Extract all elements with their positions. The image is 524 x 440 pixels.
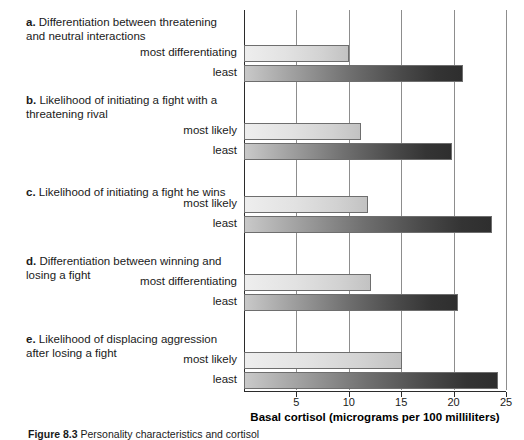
x-axis-tick-label: 15 [395, 396, 407, 408]
bar-label: most likely [37, 124, 237, 136]
x-axis-tick-label: 25 [500, 396, 512, 408]
figure-caption: Figure 8.3 Personality characteristics a… [28, 428, 518, 440]
plot-area [244, 10, 506, 390]
bar-label: most differentiating [37, 46, 237, 58]
bar-label: least [37, 66, 237, 78]
x-axis-tick-label: 5 [293, 396, 299, 408]
bar [244, 143, 452, 160]
x-axis-tick-label: 10 [343, 396, 355, 408]
bar [244, 294, 458, 311]
group-heading-text: Differentiation between threatening and … [26, 16, 217, 42]
bar-label: least [37, 217, 237, 229]
bar [244, 123, 361, 140]
gridline [506, 10, 507, 390]
group-letter: b. [26, 94, 39, 106]
bar-label: most differentiating [37, 275, 237, 287]
bar [244, 352, 402, 369]
x-axis-tick-label: 20 [447, 396, 459, 408]
bar-label: most likely [37, 197, 237, 209]
x-axis-line [244, 391, 506, 392]
bar-label: least [37, 144, 237, 156]
bar-label: least [37, 373, 237, 385]
bar-label: most likely [37, 353, 237, 365]
bar [244, 372, 498, 389]
bar-label: least [37, 295, 237, 307]
bar [244, 196, 368, 213]
group-heading-a: a. Differentiation between threatening a… [26, 16, 238, 43]
bar [244, 274, 371, 291]
bar [244, 65, 463, 82]
group-letter: e. [26, 333, 39, 345]
group-letter: a. [26, 16, 39, 28]
bar [244, 45, 349, 62]
x-axis-title: Basal cortisol (micrograms per 100 milli… [244, 411, 506, 423]
figure-caption-text: Personality characteristics and cortisol [81, 428, 260, 440]
group-heading-text: Likelihood of initiating a fight with a … [26, 94, 217, 120]
figure-caption-label: Figure 8.3 [28, 428, 78, 440]
bar [244, 216, 492, 233]
group-letter: d. [26, 255, 39, 267]
group-heading-b: b. Likelihood of initiating a fight with… [26, 94, 238, 121]
